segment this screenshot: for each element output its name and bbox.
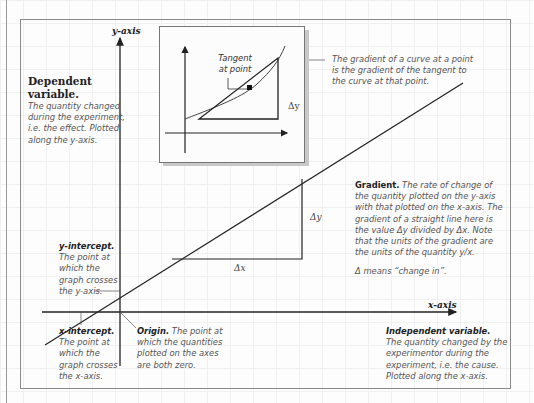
y-intercept-title: y-intercept.	[59, 241, 129, 252]
x-intercept-line: which the	[59, 348, 129, 359]
independent-variable-title: Independent variable.	[386, 326, 516, 337]
independent-variable-block: Independent variable. The quantity chang…	[386, 326, 516, 382]
gradient-explanation: Gradient. The rate of change of the quan…	[355, 180, 515, 278]
independent-variable-line: experiment, i.e. the cause.	[386, 360, 516, 371]
dependent-variable-line: along the y-axis.	[28, 135, 138, 146]
x-intercept-block: x-intercept. The point at which the grap…	[59, 326, 129, 382]
tangent-label: Tangent at point	[212, 53, 258, 75]
delta-x-label: Δx	[234, 263, 246, 273]
tangent-inset: Tangent at point Δy	[159, 26, 305, 163]
x-intercept-line: The point at	[59, 337, 129, 348]
origin-first-line: Origin. The point at	[137, 326, 257, 337]
tangent-label-line: at point	[212, 64, 258, 75]
gradient-line: the value Δy divided by Δx. Note	[355, 225, 515, 236]
origin-title: Origin.	[137, 326, 169, 336]
gradient-title: Gradient.	[355, 180, 399, 190]
independent-variable-line: The quantity changed by the	[386, 337, 516, 348]
origin-line: plotted on the axes	[137, 348, 257, 359]
caption-line: the curve at that point.	[332, 76, 522, 87]
tangent-inset-svg	[159, 26, 305, 163]
x-axis-label: x-axis	[428, 300, 457, 310]
gradient-line: with that plotted on the x-axis. The	[355, 202, 515, 213]
dependent-variable-line: The quantity changed	[28, 101, 138, 112]
curve-gradient-caption: The gradient of a curve at a point is th…	[332, 54, 522, 88]
gradient-line: the quantity plotted on the y-axis	[355, 191, 515, 202]
tangent-point-marker	[247, 85, 252, 90]
x-intercept-title: x-intercept.	[59, 326, 129, 337]
independent-variable-line: Plotted along the x-axis.	[386, 371, 516, 382]
y-intercept-line: graph crosses	[59, 275, 129, 286]
gradient-first-line-rest: The rate of change of	[399, 180, 492, 190]
y-intercept-line: the y-axis.	[59, 286, 129, 297]
y-intercept-block: y-intercept. The point at which the grap…	[59, 241, 129, 297]
dependent-variable-line: i.e. the effect. Plotted	[28, 123, 138, 134]
gradient-line: that the units of the gradient are	[355, 236, 515, 247]
gradient-triangle	[172, 179, 302, 259]
caption-line: is the gradient of the tangent to	[332, 65, 522, 76]
delta-meaning-note: Δ means “change in”.	[355, 266, 515, 277]
x-intercept-line: graph crosses	[59, 360, 129, 371]
gradient-first-line: Gradient. The rate of change of	[355, 180, 515, 191]
gradient-line: gradient of a straight line here is	[355, 214, 515, 225]
y-intercept-line: which the	[59, 263, 129, 274]
x-intercept-line: the x-axis.	[59, 371, 129, 382]
dependent-variable-block: Dependent variable. The quantity changed…	[28, 75, 138, 146]
y-axis-label: y-axis	[112, 26, 141, 36]
independent-variable-line: experimentor during the	[386, 348, 516, 359]
origin-line: are both zero.	[137, 360, 257, 371]
dependent-variable-line: during the experiment,	[28, 112, 138, 123]
caption-line: The gradient of a curve at a point	[332, 54, 522, 65]
delta-y-label: Δy	[310, 212, 322, 222]
tangent-label-line: Tangent	[212, 53, 258, 64]
origin-first-line-rest: The point at	[169, 326, 222, 336]
y-intercept-line: The point at	[59, 252, 129, 263]
gradient-line: the units of the quantity y/x.	[355, 247, 515, 258]
origin-line: which the quantities	[137, 337, 257, 348]
inset-delta-y: Δy	[288, 101, 300, 111]
dependent-variable-title: Dependent variable.	[28, 75, 138, 101]
origin-block: Origin. The point at which the quantitie…	[137, 326, 257, 371]
